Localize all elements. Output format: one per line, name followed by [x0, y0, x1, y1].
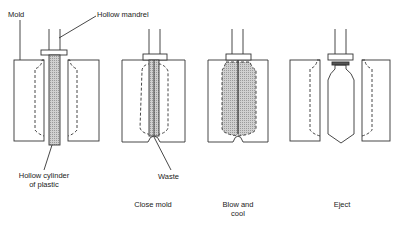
step-3-caption-line2: cool [208, 209, 268, 218]
mold-label: Mold [8, 10, 24, 19]
step-2-close-mold [122, 29, 185, 170]
step-3-caption: Blow and cool [208, 200, 268, 218]
parison-label-line2: of plastic [4, 180, 84, 189]
diagram-graphics [0, 0, 396, 228]
step-3-blow-cool [208, 29, 268, 142]
parison-label-line1: Hollow cylinder [4, 171, 84, 180]
mandrel-label: Hollow mandrel [97, 10, 149, 19]
step-2-caption: Close mold [123, 200, 183, 209]
step-4-caption: Eject [312, 200, 372, 209]
waste-label: Waste [158, 172, 179, 181]
blow-molding-diagram: Mold Hollow mandrel Hollow cylinder of p… [0, 0, 396, 228]
step-3-caption-line1: Blow and [208, 200, 268, 209]
parison-label: Hollow cylinder of plastic [4, 171, 84, 189]
step-4-eject [290, 29, 390, 143]
step-1-open-mold [14, 16, 99, 170]
